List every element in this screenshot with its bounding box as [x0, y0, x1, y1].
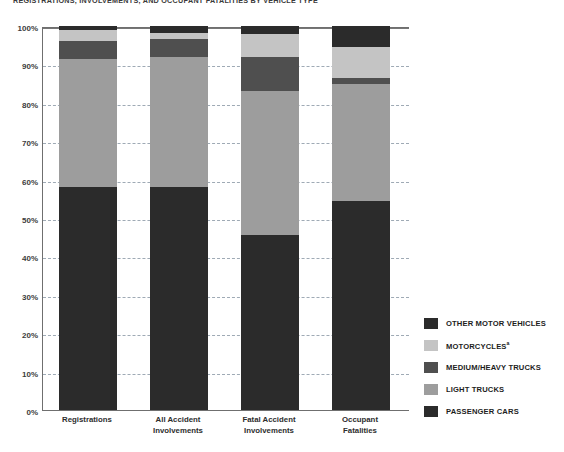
bar-segment-other-motor-vehicles[interactable]: [150, 26, 208, 33]
y-axis-tick-label: 20%: [0, 331, 38, 340]
bar-segment-other-motor-vehicles[interactable]: [332, 26, 390, 47]
bar-segment-passenger-cars[interactable]: [59, 187, 117, 410]
legend-item[interactable]: OTHER MOTOR VEHICLES: [424, 312, 562, 334]
plot-inner: 0%10%20%30%40%50%60%70%80%90%100%: [43, 28, 409, 410]
legend-label: MOTORCYCLESa: [446, 340, 510, 351]
legend-item[interactable]: PASSENGER CARS: [424, 400, 562, 422]
legend-label: MEDIUM/HEAVY TRUCKS: [446, 363, 541, 372]
legend-label: LIGHT TRUCKS: [446, 385, 504, 394]
y-axis-tick-label: 60%: [0, 177, 38, 186]
bar-segment-passenger-cars[interactable]: [241, 235, 299, 410]
y-axis-tick-label: 80%: [0, 100, 38, 109]
bar-segment-light-trucks[interactable]: [241, 91, 299, 235]
y-axis-tick-label: 10%: [0, 369, 38, 378]
bar-segment-passenger-cars[interactable]: [150, 187, 208, 410]
plot-area: 0%10%20%30%40%50%60%70%80%90%100%: [42, 27, 409, 411]
bar-registrations[interactable]: [59, 26, 117, 410]
legend-label: OTHER MOTOR VEHICLES: [446, 319, 546, 328]
legend-item[interactable]: MOTORCYCLESa: [424, 334, 562, 356]
chart-legend: OTHER MOTOR VEHICLESMOTORCYCLESaMEDIUM/H…: [424, 312, 562, 422]
bar-segment-medium-heavy-trucks[interactable]: [150, 39, 208, 56]
bar-segment-motorcycles[interactable]: [150, 33, 208, 40]
bar-segment-motorcycles[interactable]: [59, 30, 117, 42]
x-axis-label-line: Occupant: [300, 414, 420, 425]
y-axis-tick-label: 30%: [0, 292, 38, 301]
bar-segment-medium-heavy-trucks[interactable]: [241, 57, 299, 92]
bar-all-accident-involvements[interactable]: [150, 26, 208, 410]
bar-segment-medium-heavy-trucks[interactable]: [59, 41, 117, 58]
y-axis-tick-label: 100%: [0, 24, 38, 33]
bar-segment-motorcycles[interactable]: [241, 34, 299, 57]
bar-segment-other-motor-vehicles[interactable]: [59, 26, 117, 30]
bar-segment-light-trucks[interactable]: [59, 59, 117, 188]
legend-swatch-icon: [424, 340, 438, 351]
y-axis-tick-label: 40%: [0, 254, 38, 263]
chart-title: REGISTRATIONS, INVOLVEMENTS, AND OCCUPAN…: [13, 0, 318, 5]
bar-segment-medium-heavy-trucks[interactable]: [332, 78, 390, 84]
y-axis-tick-label: 50%: [0, 216, 38, 225]
y-axis-tick-label: 70%: [0, 139, 38, 148]
bar-fatal-accident-involvements[interactable]: [241, 26, 299, 410]
legend-swatch-icon: [424, 318, 438, 329]
bar-segment-other-motor-vehicles[interactable]: [241, 26, 299, 34]
bar-occupant-fatalities[interactable]: [332, 26, 390, 410]
bar-segment-motorcycles[interactable]: [332, 47, 390, 78]
legend-swatch-icon: [424, 406, 438, 417]
bar-segment-light-trucks[interactable]: [150, 57, 208, 188]
legend-item[interactable]: LIGHT TRUCKS: [424, 378, 562, 400]
bar-segment-light-trucks[interactable]: [332, 84, 390, 201]
bar-segment-passenger-cars[interactable]: [332, 201, 390, 410]
x-axis-label: OccupantFatalities: [300, 414, 420, 436]
legend-item[interactable]: MEDIUM/HEAVY TRUCKS: [424, 356, 562, 378]
legend-swatch-icon: [424, 384, 438, 395]
y-axis-tick-label: 90%: [0, 62, 38, 71]
legend-footnote-marker: a: [507, 340, 510, 346]
legend-swatch-icon: [424, 362, 438, 373]
x-axis-label-line: Fatalities: [300, 425, 420, 436]
legend-label: PASSENGER CARS: [446, 407, 519, 416]
